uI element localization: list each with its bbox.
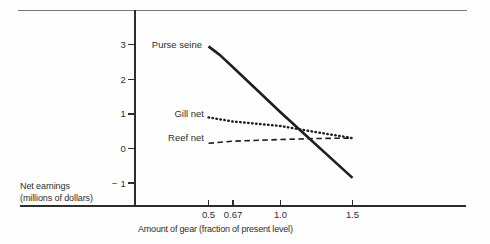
x-tick-mark	[232, 200, 233, 206]
x-tick-mark	[352, 200, 353, 206]
series-label-purse-seine: Purse seine	[152, 39, 202, 50]
chart-figure: 3210− 1 0.50.671.01.5 Purse seineGill ne…	[0, 0, 490, 244]
series-label-reef-net: Reef net	[168, 131, 204, 142]
y-tick-mark	[128, 148, 135, 149]
series-line-purse-seine	[209, 46, 353, 178]
x-tick-label: 0.67	[217, 209, 249, 220]
y-tick-label: 1	[96, 108, 126, 119]
y-axis-title-line1: Net earnings	[20, 180, 93, 192]
x-tick-mark	[208, 200, 209, 206]
y-tick-label: 0	[96, 143, 126, 154]
series-label-gill-net: Gill net	[174, 107, 204, 118]
y-tick-label: 2	[96, 74, 126, 85]
plot-lines-canvas	[0, 0, 490, 244]
y-tick-mark	[128, 79, 135, 80]
y-tick-mark	[128, 182, 135, 183]
y-tick-mark	[128, 113, 135, 114]
y-axis-title-line2: (millions of dollars)	[20, 192, 93, 204]
y-tick-label: − 1	[96, 178, 126, 189]
y-tick-label: 3	[96, 39, 126, 50]
y-tick-mark	[128, 44, 135, 45]
series-line-reef-net	[209, 138, 353, 143]
x-tick-label: 1.5	[337, 209, 369, 220]
x-tick-label: 1.0	[265, 209, 297, 220]
series-line-gill-net	[209, 117, 353, 138]
x-tick-mark	[280, 200, 281, 206]
y-axis-title: Net earnings (millions of dollars)	[20, 180, 93, 204]
x-axis-title: Amount of gear (fraction of present leve…	[138, 224, 293, 235]
